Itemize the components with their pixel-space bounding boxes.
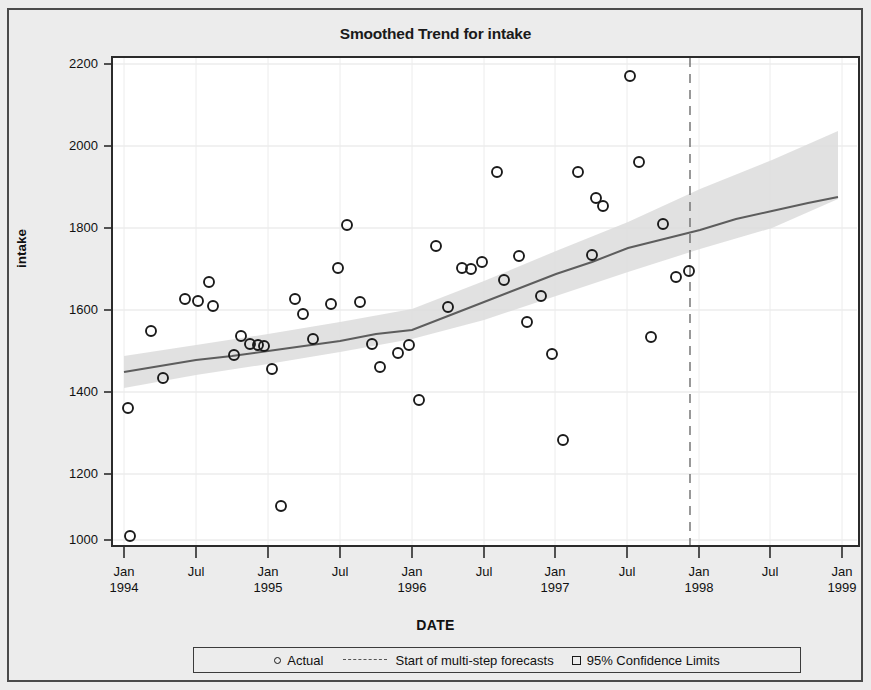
- x-tick-label: Jul: [735, 564, 805, 580]
- square-marker-icon: [572, 656, 581, 665]
- x-axis-ticks: [124, 546, 842, 558]
- legend-item-forecast-start: Start of multi-step forecasts: [341, 653, 553, 668]
- x-tick-label: Jan 1994: [89, 564, 159, 596]
- y-tick-label: 2000: [38, 138, 98, 153]
- y-tick-label: 1200: [38, 466, 98, 481]
- x-tick-month: Jul: [161, 564, 231, 580]
- x-tick-label: Jan 1997: [520, 564, 590, 596]
- x-tick-month: Jan: [377, 564, 447, 580]
- y-tick-label: 2200: [38, 56, 98, 71]
- circle-marker-icon: [274, 657, 281, 664]
- x-tick-label: Jul: [305, 564, 375, 580]
- x-tick-year: 1996: [377, 580, 447, 596]
- x-tick-year: 1997: [520, 580, 590, 596]
- x-tick-label: Jul: [449, 564, 519, 580]
- legend-item-actual: Actual: [274, 653, 323, 668]
- x-tick-month: Jul: [592, 564, 662, 580]
- x-tick-month: Jul: [735, 564, 805, 580]
- x-tick-label: Jan 1999: [807, 564, 871, 596]
- y-axis-ticks: [104, 64, 112, 540]
- chart-legend: Actual Start of multi-step forecasts 95%…: [193, 647, 801, 673]
- x-tick-year: 1998: [664, 580, 734, 596]
- x-tick-year: 1994: [89, 580, 159, 596]
- x-tick-label: Jul: [161, 564, 231, 580]
- y-tick-label: 1000: [38, 532, 98, 547]
- x-tick-month: Jan: [807, 564, 871, 580]
- x-tick-month: Jan: [520, 564, 590, 580]
- y-tick-label: 1800: [38, 220, 98, 235]
- x-tick-year: 1995: [233, 580, 303, 596]
- x-tick-month: Jan: [664, 564, 734, 580]
- x-axis-label: DATE: [0, 617, 871, 633]
- chart-figure: Smoothed Trend for intake intake: [0, 0, 871, 690]
- x-tick-label: Jan 1995: [233, 564, 303, 596]
- dashed-line-marker-icon: [343, 659, 387, 661]
- y-tick-label: 1400: [38, 384, 98, 399]
- x-tick-label: Jan 1996: [377, 564, 447, 596]
- legend-label-confidence-limits: 95% Confidence Limits: [587, 653, 720, 668]
- x-tick-month: Jan: [233, 564, 303, 580]
- x-tick-month: Jul: [449, 564, 519, 580]
- x-tick-month: Jul: [305, 564, 375, 580]
- x-tick-label: Jan 1998: [664, 564, 734, 596]
- y-tick-label: 1600: [38, 302, 98, 317]
- x-tick-month: Jan: [89, 564, 159, 580]
- legend-label-forecast-start: Start of multi-step forecasts: [395, 653, 553, 668]
- x-tick-year: 1999: [807, 580, 871, 596]
- legend-item-confidence-limits: 95% Confidence Limits: [572, 653, 720, 668]
- legend-label-actual: Actual: [287, 653, 323, 668]
- x-tick-label: Jul: [592, 564, 662, 580]
